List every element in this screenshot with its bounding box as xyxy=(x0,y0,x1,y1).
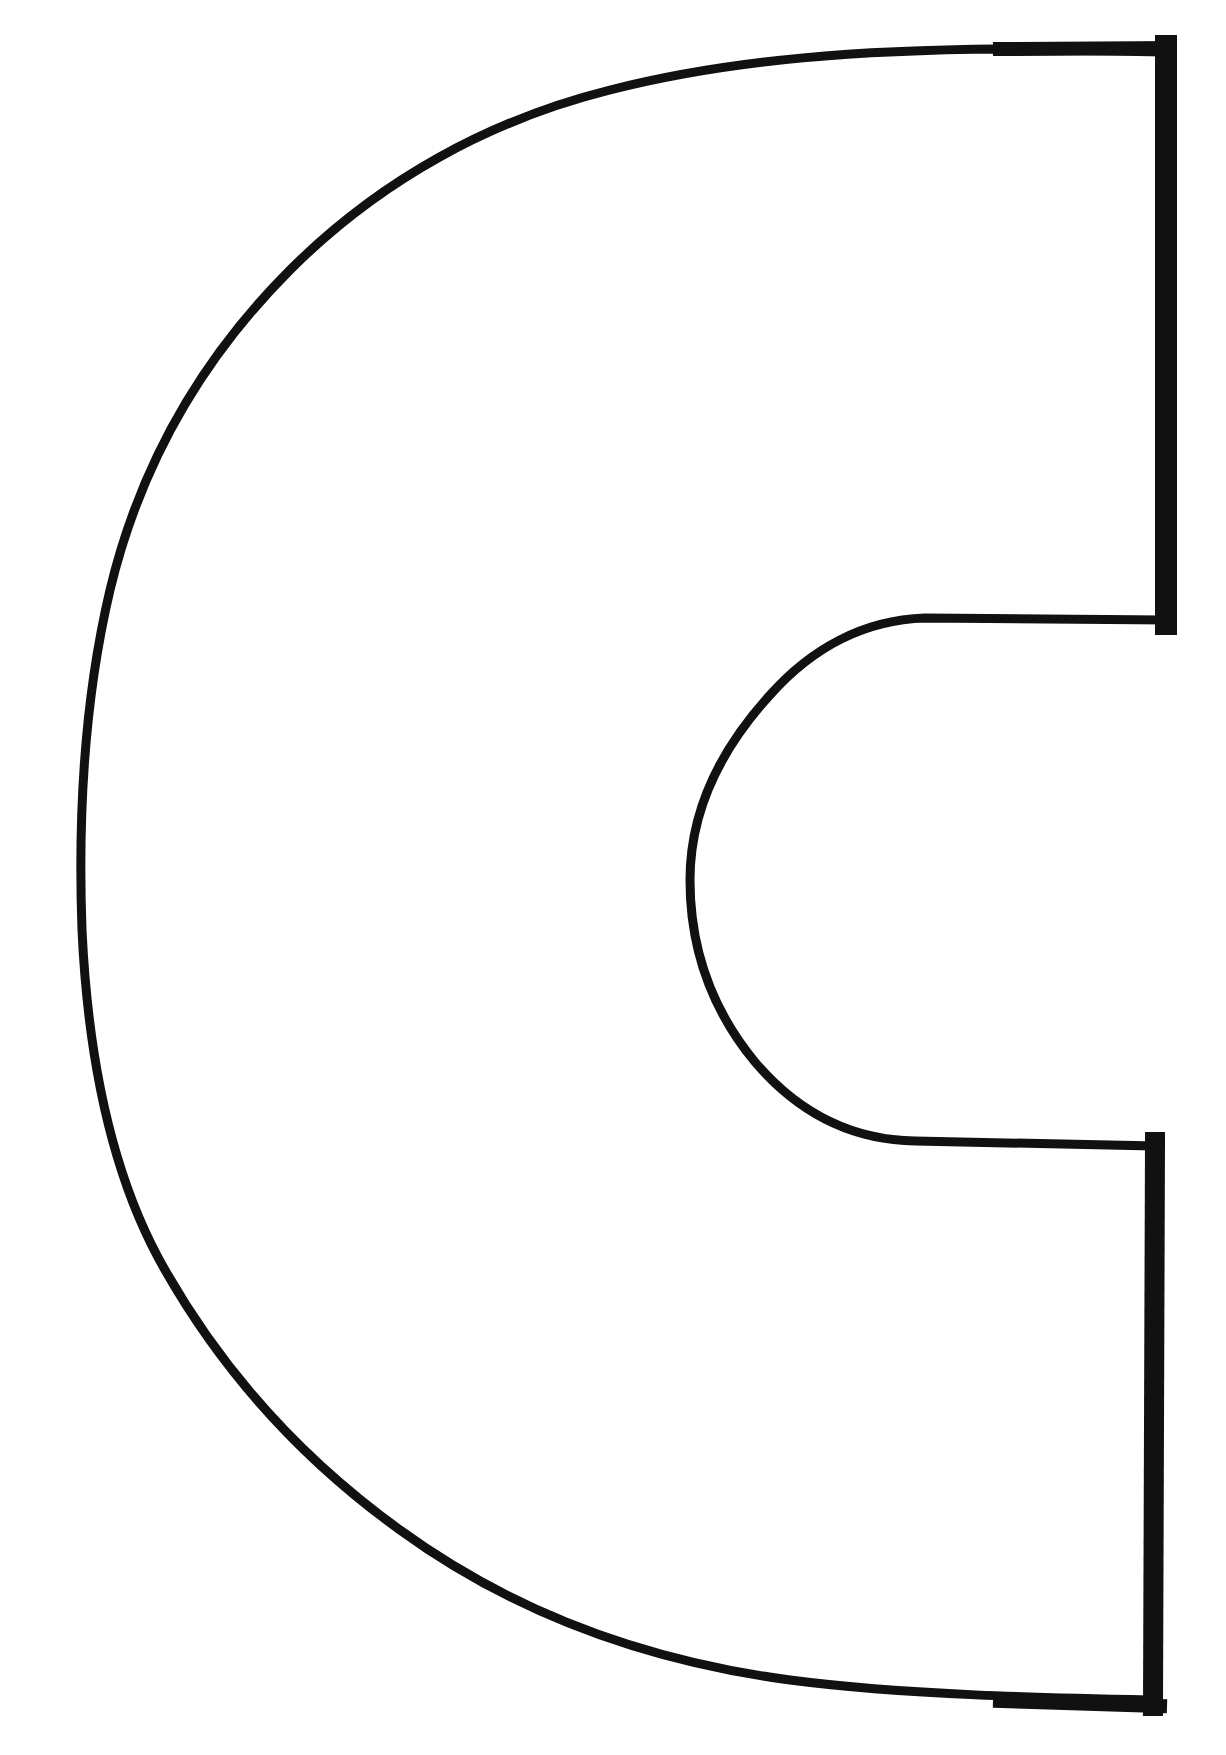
bottom-edge xyxy=(1000,1701,1160,1706)
letter-c-coloring-page: C xyxy=(0,0,1226,1755)
letter-c-outline-icon xyxy=(0,0,1226,1755)
letter-c-shape xyxy=(81,49,1164,1700)
top-edge xyxy=(1000,48,1170,49)
bottom-right-edge xyxy=(1153,1142,1155,1706)
